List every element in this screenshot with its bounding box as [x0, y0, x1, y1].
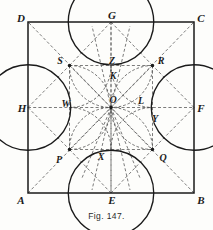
- node-s: [68, 64, 71, 67]
- ray-o-2: [111, 108, 130, 191]
- inner-arc-h-top: [70, 66, 112, 108]
- inner-arc-g-right: [111, 66, 153, 108]
- inner-arc-g-left: [69, 66, 111, 108]
- vertex-label-b: B: [197, 195, 204, 206]
- circles-group: [0, 0, 213, 230]
- midpoint-label-f: F: [197, 103, 204, 114]
- inner-label-o: O: [109, 95, 116, 105]
- inner-label-k: K: [110, 71, 117, 81]
- inner-arc-f-top: [111, 66, 153, 108]
- midpoint-label-g: G: [108, 10, 116, 21]
- ray-o-4: [111, 108, 140, 179]
- petal-arc-sz-w: [70, 66, 112, 108]
- node-r: [151, 64, 154, 67]
- node-o: [109, 106, 112, 109]
- point-label-s: S: [57, 56, 63, 66]
- vertex-label-c: C: [197, 13, 204, 24]
- petal-arc-rz-l: [111, 66, 153, 108]
- vertex-label-d: D: [17, 13, 25, 24]
- point-label-r: R: [158, 56, 165, 66]
- inner-label-x: X: [98, 152, 105, 162]
- node-p: [68, 148, 71, 151]
- midpoint-label-h: H: [18, 103, 27, 114]
- figure-147-container: D C A B G F E H S R P Q Z K O L W Y X Fi…: [0, 0, 213, 230]
- inner-label-w: W: [62, 99, 71, 109]
- figure-caption: Fig. 147.: [0, 211, 213, 221]
- spoke-f-q: [153, 108, 195, 150]
- ray-o-5: [92, 26, 111, 108]
- node-q: [151, 148, 154, 151]
- inner-label-z: Z: [109, 56, 115, 66]
- spoke-f-r: [153, 66, 195, 108]
- ray-o-3: [82, 108, 111, 179]
- ray-o-1: [92, 108, 111, 191]
- vertex-label-a: A: [17, 195, 24, 206]
- point-label-p: P: [56, 155, 62, 165]
- spoke-h-p: [28, 108, 70, 150]
- midpoint-label-e: E: [108, 195, 115, 206]
- inner-label-y: Y: [152, 114, 158, 124]
- inner-label-l: L: [138, 96, 144, 106]
- point-label-q: Q: [159, 153, 166, 163]
- geometry-diagram: [0, 0, 213, 230]
